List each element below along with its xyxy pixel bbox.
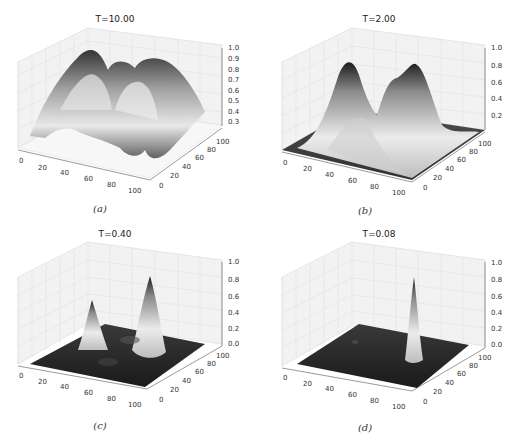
y-tick: 100	[478, 354, 491, 362]
x-tick: 0	[19, 157, 23, 165]
y-tick: 0	[423, 398, 427, 406]
y-tick: 60	[457, 156, 466, 164]
x-tick: 100	[392, 189, 405, 197]
x-tick: 20	[38, 164, 47, 172]
z-tick: 0.6	[228, 87, 239, 95]
y-tick: 40	[445, 165, 454, 173]
surface-plot-c	[0, 222, 257, 445]
y-tick: 20	[170, 386, 179, 394]
x-tick: 100	[128, 187, 141, 195]
z-tick: 0.7	[228, 76, 239, 84]
z-tick: 1.0	[491, 44, 502, 52]
y-tick: 80	[469, 148, 478, 156]
panel-caption: (b)	[358, 205, 372, 216]
z-tick: 0.8	[228, 66, 239, 74]
y-tick: 60	[457, 370, 466, 378]
x-tick: 40	[60, 169, 69, 177]
x-tick: 40	[325, 385, 334, 393]
x-tick: 80	[370, 183, 379, 191]
y-tick: 40	[182, 163, 191, 171]
x-tick: 0	[283, 159, 287, 167]
z-tick: 0.4	[228, 108, 239, 116]
x-tick: 20	[38, 378, 47, 386]
panel-caption: (d)	[358, 422, 372, 433]
z-tick: 1.0	[228, 258, 239, 266]
z-tick: 0.0	[491, 341, 502, 349]
y-tick: 0	[423, 184, 427, 192]
x-tick: 0	[19, 372, 23, 380]
x-tick: 40	[325, 171, 334, 179]
x-tick: 20	[303, 165, 312, 173]
x-tick: 80	[107, 181, 116, 189]
y-tick: 40	[182, 377, 191, 385]
z-tick: 0.2	[491, 325, 502, 333]
y-tick: 100	[216, 352, 229, 360]
z-tick: 1.0	[491, 259, 502, 267]
y-tick: 40	[445, 379, 454, 387]
y-tick: 20	[170, 172, 179, 180]
z-tick: 0.8	[491, 276, 502, 284]
y-tick: 0	[159, 182, 163, 190]
x-tick: 20	[303, 380, 312, 388]
y-tick: 100	[478, 140, 491, 148]
z-tick: 0.6	[491, 79, 502, 87]
x-tick: 60	[348, 391, 357, 399]
y-tick: 80	[207, 360, 216, 368]
y-tick: 0	[159, 396, 163, 404]
panel-c: T=0.40 1.0 0.8 0.6 0.4 0.2 0.0 0 20 40 6…	[0, 222, 257, 444]
y-tick: 20	[433, 388, 442, 396]
x-tick: 100	[392, 403, 405, 411]
x-tick: 0	[283, 374, 287, 382]
panel-a: T=10.00 1.0 0.9 0.8 0.7 0.6 0.5 0.4 0.3 …	[0, 0, 257, 222]
z-tick: 0.4	[491, 95, 502, 103]
z-tick: 0.6	[228, 293, 239, 301]
z-tick: 0.6	[491, 293, 502, 301]
x-tick: 100	[128, 401, 141, 409]
y-tick: 80	[469, 362, 478, 370]
x-tick: 40	[60, 383, 69, 391]
z-tick: 0.3	[228, 118, 239, 126]
x-tick: 80	[370, 397, 379, 405]
y-tick: 100	[216, 138, 229, 146]
z-tick: 0.2	[491, 112, 502, 120]
z-tick: 0.4	[491, 309, 502, 317]
y-tick: 80	[207, 146, 216, 154]
y-tick: 60	[195, 154, 204, 162]
panel-caption: (a)	[93, 203, 107, 214]
y-tick: 60	[195, 368, 204, 376]
x-tick: 60	[84, 389, 93, 397]
z-tick: 0.8	[491, 62, 502, 70]
y-tick: 20	[433, 174, 442, 182]
x-tick: 60	[348, 177, 357, 185]
panel-b: T=2.00 1.0 0.8 0.6 0.4 0.2 0 20 40 60 80…	[257, 0, 514, 222]
surface-plot-d	[257, 222, 514, 445]
z-tick: 0.8	[228, 276, 239, 284]
z-tick: 0.0	[228, 340, 239, 348]
z-tick: 0.4	[228, 309, 239, 317]
surface-plot-b	[257, 0, 514, 222]
z-tick: 1.0	[228, 44, 239, 52]
z-tick: 0.9	[228, 55, 239, 63]
x-tick: 60	[84, 175, 93, 183]
z-tick: 0.2	[228, 325, 239, 333]
x-tick: 80	[107, 395, 116, 403]
z-tick: 0.5	[228, 97, 239, 105]
panel-caption: (c)	[93, 420, 106, 431]
panel-d: T=0.08 1.0 0.8 0.6 0.4 0.2 0.0 0 20 40 6…	[257, 222, 514, 444]
